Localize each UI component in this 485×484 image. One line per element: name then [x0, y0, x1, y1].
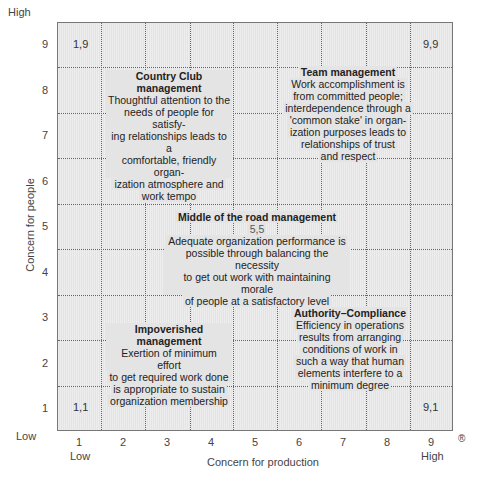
style-text-line: and respect — [319, 150, 378, 162]
y-tick-2: 2 — [36, 357, 48, 369]
y-tick-4: 4 — [36, 266, 48, 278]
style-text-line: organization membership — [108, 395, 230, 407]
style-title: Middle of the road management — [176, 211, 338, 223]
style-text-line: ization purposes leads to — [288, 126, 408, 138]
style-title: Impoverished management — [106, 323, 232, 347]
style-text-line: such a way that human — [294, 355, 406, 367]
style-text-line: relationships of trust — [299, 138, 397, 150]
style-text-line: work tempo — [140, 190, 198, 202]
style-text-line: ing relationships leads to a — [106, 130, 232, 154]
x-tick-6: 6 — [289, 436, 309, 448]
style-text-line: comfortable, friendly organ- — [106, 154, 232, 178]
style-text-line: to get out work with maintaining morale — [164, 271, 350, 295]
x-tick-8: 8 — [377, 436, 397, 448]
style-box-middle-of-the-road: Middle of the road management 5,5 Adequa… — [164, 211, 350, 307]
y-tick-9: 9 — [36, 38, 48, 50]
corner-label-9-9: 9,9 — [423, 38, 438, 50]
y-tick-5: 5 — [36, 220, 48, 232]
y-tick-8: 8 — [36, 84, 48, 96]
style-box-impoverished: Impoverished management Exertion of mini… — [106, 323, 232, 407]
style-text-line: of people at a satisfactory level — [183, 295, 331, 307]
x-tick-9: 9 — [421, 436, 441, 448]
style-text-line: elements interfere to a — [296, 367, 404, 379]
style-text-line: Adequate organization performance is — [166, 235, 347, 247]
style-box-authority-compliance: Authority–Compliance Efficiency in opera… — [292, 307, 408, 391]
registered-trademark-mark: ® — [458, 433, 465, 444]
x-tick-2: 2 — [113, 436, 133, 448]
style-text-line: interdependence through a — [283, 102, 413, 114]
corner-label-1-1: 1,1 — [73, 401, 88, 413]
style-text-line: possible through balancing the necessity — [164, 247, 350, 271]
style-text-line: conditions of work in — [300, 343, 399, 355]
style-text-line: Work accomplishment is — [289, 78, 407, 90]
y-tick-6: 6 — [36, 175, 48, 187]
x-tick-7: 7 — [333, 436, 353, 448]
style-text-line: 'common stake' in organ- — [288, 114, 409, 126]
managerial-grid: 1,9 9,9 1,1 9,1 Country Club management … — [57, 22, 453, 431]
style-text-line: Exertion of minimum effort — [106, 347, 232, 371]
style-text-line: is appropriate to sustain — [111, 383, 226, 395]
grid-line — [58, 204, 452, 205]
x-axis-label: Concern for production — [207, 456, 319, 468]
y-tick-7: 7 — [36, 129, 48, 141]
style-text-line: results from arranging — [297, 331, 403, 343]
corner-label-1-9: 1,9 — [73, 38, 88, 50]
grid-line — [101, 23, 102, 430]
x-tick-4: 4 — [201, 436, 221, 448]
style-text-line: Efficiency in operations — [294, 319, 406, 331]
x-tick-5: 5 — [245, 436, 265, 448]
y-axis-high-label: High — [8, 6, 31, 18]
y-axis-low-label: Low — [16, 430, 36, 442]
style-text-line: ization atmosphere and — [112, 178, 225, 190]
style-text-line: minimum degree — [309, 379, 391, 391]
coord-label-5-5: 5,5 — [248, 223, 267, 235]
style-text-line: Thoughtful attention to the — [106, 94, 232, 106]
style-title: Country Club management — [106, 70, 232, 94]
y-axis-label: Concern for people — [24, 178, 36, 272]
style-title: Authority–Compliance — [292, 307, 408, 319]
style-text-line: from committed people; — [291, 90, 405, 102]
x-tick-3: 3 — [157, 436, 177, 448]
style-text-line: to get required work done — [107, 371, 230, 383]
style-text-line: needs of people for satisfy- — [106, 106, 232, 130]
x-axis-low-label: Low — [70, 450, 90, 462]
style-box-team: Team management Work accomplishment is f… — [283, 66, 413, 162]
y-tick-1: 1 — [36, 402, 48, 414]
y-tick-3: 3 — [36, 311, 48, 323]
style-box-country-club: Country Club management Thoughtful atten… — [106, 70, 232, 202]
corner-label-9-1: 9,1 — [423, 401, 438, 413]
x-tick-1: 1 — [69, 436, 89, 448]
x-axis-high-label: High — [421, 450, 444, 462]
style-title: Team management — [299, 66, 397, 78]
